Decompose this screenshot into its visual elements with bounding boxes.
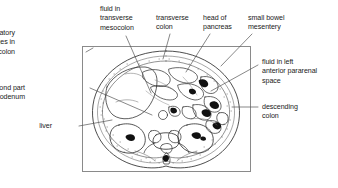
label-line: pancreas xyxy=(203,23,232,32)
label-line: anterior pararenal xyxy=(262,67,317,76)
label-line: space xyxy=(262,77,317,86)
label-line: liver xyxy=(39,122,52,131)
label-inflammatory-changes-in-transverse-colon: inflammatorychanges intransverse colon xyxy=(0,29,15,57)
label-line: small bowel xyxy=(248,14,285,23)
label-line: duodenum xyxy=(0,93,25,102)
label-line: mesocolon xyxy=(100,24,134,33)
label-line: fluid in xyxy=(100,5,134,14)
ct-image-frame xyxy=(82,46,251,172)
label-liver: liver xyxy=(39,122,52,131)
label-line: fluid in left xyxy=(262,58,317,67)
label-fluid-in-transverse-mesocolon: fluid intransversemesocolon xyxy=(100,5,134,33)
label-line: inflammatory xyxy=(0,29,15,38)
label-line: changes in xyxy=(0,38,15,47)
label-line: colon xyxy=(262,112,298,121)
label-descending-colon: descendingcolon xyxy=(262,103,298,122)
label-line: second part xyxy=(0,84,25,93)
label-head-of-pancreas: head ofpancreas xyxy=(203,14,232,33)
label-line: mesentery xyxy=(248,23,285,32)
ct-cross-section-drawing xyxy=(83,47,250,171)
label-small-bowel-mesentery: small bowelmesentery xyxy=(248,14,285,33)
label-line: transverse xyxy=(156,14,189,23)
label-line: descending xyxy=(262,103,298,112)
label-transverse-colon: transversecolon xyxy=(156,14,189,33)
label-fluid-in-left-anterior-pararenal-space: fluid in leftanterior pararenalspace xyxy=(262,58,317,86)
label-second-part-duodenum: second partduodenum xyxy=(0,84,25,103)
label-line: head of xyxy=(203,14,232,23)
figure-canvas: inflammatorychanges intransverse colonfl… xyxy=(0,0,338,188)
label-line: transverse colon xyxy=(0,48,15,57)
label-line: transverse xyxy=(100,14,134,23)
label-line: colon xyxy=(156,23,189,32)
